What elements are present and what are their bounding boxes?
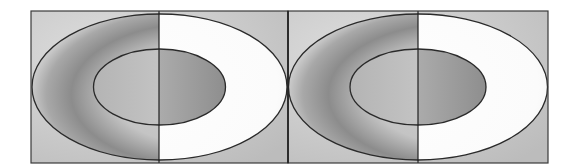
lightness-illusion-figure <box>0 0 565 165</box>
panel-right <box>288 11 548 163</box>
panel-left <box>31 11 288 163</box>
